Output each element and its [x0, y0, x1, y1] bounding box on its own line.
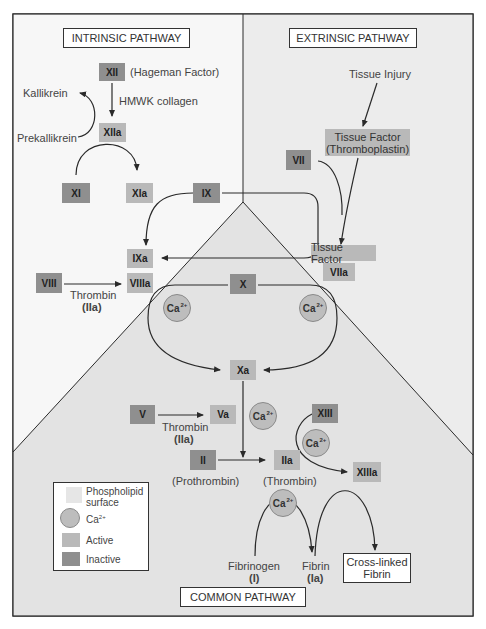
legend-phospholipid-line2: surface: [86, 497, 119, 508]
thrombin-code-viii: (IIa): [82, 301, 102, 313]
calcium-ion-middle: Ca2+: [249, 402, 277, 430]
legend-calcium: Ca2+: [86, 512, 106, 525]
factor-va: Va: [210, 405, 236, 424]
fibrinogen-code: (I): [249, 572, 259, 584]
hmwk-collagen-label: HMWK collagen: [119, 95, 198, 107]
common-pathway-title: COMMON PATHWAY: [180, 587, 306, 607]
legend: Phospholipid surface Ca2+ Active Inactiv…: [53, 482, 149, 571]
calcium-ion-left: Ca2+: [163, 294, 191, 322]
factor-viiia: VIIIa: [127, 273, 153, 293]
tissue-factor-line2: (Thromboplastin): [326, 143, 409, 155]
factor-xiiia: XIIIa: [353, 462, 381, 482]
phospholipid-swatch: [66, 487, 82, 503]
cross-linked-line2: Fibrin: [363, 568, 391, 580]
extrinsic-pathway-title: EXTRINSIC PATHWAY: [289, 28, 417, 48]
fibrin-label: Fibrin: [302, 560, 330, 572]
coagulation-cascade-diagram: INTRINSIC PATHWAY EXTRINSIC PATHWAY COMM…: [0, 0, 486, 629]
tissue-factor-line1: Tissue Factor: [334, 131, 400, 143]
thrombin-code-v: (IIa): [174, 433, 194, 445]
tissue-factor-thromboplastin: Tissue Factor (Thromboplastin): [325, 129, 410, 156]
kallikrein-label: Kallikrein: [23, 87, 68, 99]
factor-viii: VIII: [36, 273, 62, 293]
legend-phospholipid-line1: Phospholipid: [86, 486, 143, 497]
hageman-factor-label: (Hageman Factor): [130, 66, 219, 78]
cross-linked-line1: Cross-linked: [346, 556, 407, 568]
factor-vii: VII: [286, 150, 311, 170]
factor-ixa: IXa: [127, 249, 153, 268]
prothrombin-label: (Prothrombin): [172, 475, 239, 487]
fibrin-code: (Ia): [307, 572, 324, 584]
legend-active: Active: [86, 535, 113, 546]
calcium-ion-fibrin: Ca2+: [269, 489, 297, 517]
inactive-swatch: [62, 552, 80, 566]
thrombin-label-v: Thrombin: [162, 421, 208, 433]
prekallikrein-label: Prekallikrein: [17, 132, 77, 144]
thrombin-label-viii: Thrombin: [70, 289, 116, 301]
factor-viia: VIIa: [323, 263, 355, 281]
factor-v: V: [130, 405, 155, 424]
thrombin-name-label: (Thrombin): [263, 475, 317, 487]
intrinsic-pathway-title: INTRINSIC PATHWAY: [63, 28, 190, 48]
factor-xiia: XIIa: [99, 123, 126, 142]
factor-xia: XIa: [126, 183, 153, 203]
active-swatch: [62, 533, 80, 547]
factor-xi: XI: [62, 183, 90, 203]
factor-xiii: XIII: [312, 404, 338, 423]
calcium-ion-xiii: Ca2+: [302, 429, 330, 457]
calcium-swatch: [60, 508, 80, 528]
factor-ii: II: [190, 450, 216, 470]
fibrinogen-label: Fibrinogen: [228, 560, 280, 572]
factor-xii: XII: [99, 63, 125, 81]
tissue-injury-label: Tissue Injury: [349, 68, 411, 80]
legend-inactive: Inactive: [86, 554, 120, 565]
factor-iia: IIa: [274, 450, 300, 470]
factor-ix: IX: [193, 183, 220, 203]
cross-linked-fibrin-box: Cross-linked Fibrin: [343, 553, 411, 583]
calcium-ion-right: Ca2+: [299, 294, 327, 322]
factor-xa: Xa: [230, 360, 256, 380]
tissue-factor-label: Tissue Factor: [311, 245, 376, 261]
factor-x: X: [230, 274, 256, 294]
